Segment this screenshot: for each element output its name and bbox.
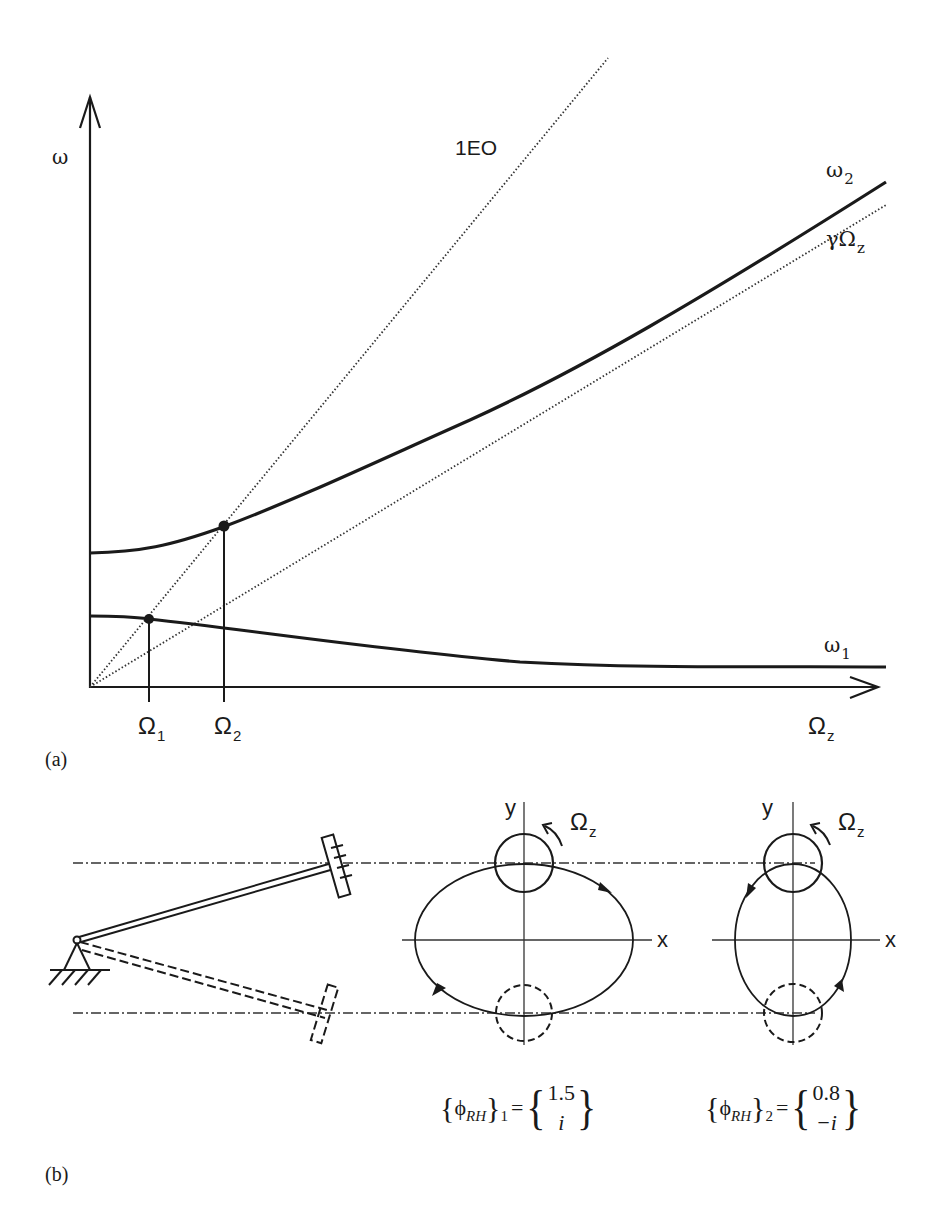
Omega1-sub: 1	[157, 727, 165, 744]
line-gamma-omega-z	[90, 205, 886, 687]
eq1-brace-open: {	[440, 1093, 454, 1123]
Omega2-sub: 2	[233, 727, 241, 744]
Omega1-main: Ω	[138, 712, 156, 739]
mode2-orbit	[712, 802, 880, 1045]
eq2-top: 0.8	[813, 1078, 841, 1108]
gamma-omega-z-sub: z	[857, 239, 865, 257]
mode1-orbit	[402, 802, 652, 1045]
eq1-equals: =	[511, 1095, 523, 1121]
eq2-brace-close: }	[751, 1093, 765, 1123]
omega-z-sub: z	[827, 727, 835, 744]
eq2-phi: ϕ	[719, 1095, 731, 1121]
eq1-bottom: i	[558, 1108, 564, 1138]
curve-omega1	[90, 616, 886, 667]
shaft-upper	[79, 835, 352, 942]
mode1-y-axis-label: y	[505, 795, 516, 821]
eq1-brace-close: }	[486, 1093, 500, 1123]
y-axis	[80, 97, 100, 688]
mode2-rotation-label: Ωz	[838, 808, 864, 836]
marker-omega2-intersection	[219, 521, 230, 703]
curve-omega2	[90, 182, 886, 553]
eq1-vec-close: }	[577, 1084, 596, 1132]
eq1-top: 1.5	[548, 1078, 576, 1108]
eq2-brace-open: {	[705, 1093, 719, 1123]
eq1-phi: ϕ	[454, 1095, 466, 1121]
marker-omega1-intersection	[144, 614, 154, 702]
x-axis	[89, 677, 878, 698]
shaft-lower-dashed	[80, 942, 338, 1043]
omega2-label: ω2	[826, 158, 854, 182]
panel-a-label: (a)	[45, 748, 67, 771]
Omega1-tick-label: Ω1	[138, 712, 165, 740]
gamma-omega-z-main: γΩ	[826, 227, 856, 251]
mode2-rotation-main: Ω	[838, 808, 856, 835]
eq2-index: 2	[765, 1108, 773, 1125]
mode2-rotation-sub: z	[857, 823, 865, 840]
eq1-vec-open: {	[526, 1084, 545, 1132]
mode1-equation: { ϕ RH } 1 = { 1.5 i }	[440, 1078, 596, 1138]
omega2-main: ω	[826, 158, 843, 182]
mode2-y-axis-label: y	[762, 795, 773, 821]
eq2-vector: 0.8 −i	[813, 1078, 841, 1138]
eq2-bottom: −i	[816, 1108, 837, 1138]
eq2-vec-close: }	[842, 1084, 861, 1132]
eq1-subscript-rh: RH	[466, 1108, 486, 1125]
Omega2-tick-label: Ω2	[214, 712, 241, 740]
figure-canvas	[0, 0, 942, 1217]
omega1-label: ω1	[824, 633, 851, 657]
gamma-omega-z-label: γΩz	[826, 227, 865, 251]
mode1-rotation-sub: z	[589, 823, 597, 840]
mode2-equation: { ϕ RH } 2 = { 0.8 −i }	[705, 1078, 861, 1138]
mode1-x-axis-label: x	[657, 927, 668, 953]
omega-axis-label: ω	[52, 145, 68, 169]
eq1-vector: 1.5 i	[548, 1078, 576, 1138]
omega2-sub: 2	[844, 170, 854, 188]
omega-z-main: Ω	[808, 712, 826, 739]
omega1-sub: 1	[841, 645, 851, 663]
eq2-equals: =	[776, 1095, 788, 1121]
eq2-subscript-rh: RH	[731, 1108, 751, 1125]
eq2-vec-open: {	[791, 1084, 810, 1132]
line-1eo	[90, 58, 608, 687]
panel-b-label: (b)	[45, 1163, 68, 1186]
Omega2-main: Ω	[214, 712, 232, 739]
omega1-main: ω	[824, 633, 840, 657]
eo-line-label: 1EO	[455, 136, 497, 160]
mode2-x-axis-label: x	[885, 927, 896, 953]
mode1-rotation-main: Ω	[570, 808, 588, 835]
mode1-rotation-label: Ωz	[570, 808, 596, 836]
omega-z-axis-label: Ωz	[808, 712, 834, 740]
pivot-support	[49, 937, 110, 986]
eq1-index: 1	[500, 1108, 508, 1125]
